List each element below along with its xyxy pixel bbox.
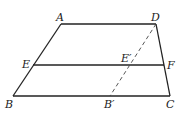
- trapezoid-diagram: A D E E′ F B B′ C: [0, 0, 183, 119]
- segment-AB: [13, 24, 61, 96]
- label-B: B: [4, 98, 13, 111]
- label-E: E: [21, 58, 30, 71]
- segment-DBprime-dashed: [110, 24, 156, 96]
- label-F: F: [166, 59, 175, 72]
- label-Bprime: B′: [103, 98, 115, 111]
- label-A: A: [55, 11, 64, 24]
- label-D: D: [150, 11, 160, 24]
- label-C: C: [166, 98, 175, 111]
- label-Eprime: E′: [120, 52, 132, 65]
